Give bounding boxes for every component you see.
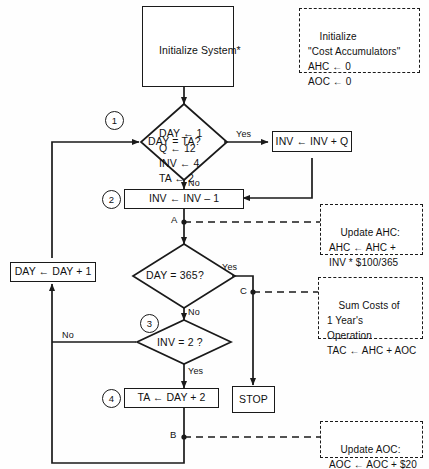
ta-day-plus-2-text: TA ← DAY + 2 xyxy=(137,390,205,405)
marker-circle-3: 3 xyxy=(140,314,159,333)
update-ahc-text: Update AHC: AHC ← AHC + INV * $100/365 xyxy=(329,227,400,268)
edge-invq-to-inv1 xyxy=(243,158,312,198)
node-initialize-system: Initialize System* DAY ← 1 Q ← 12 INV ← … xyxy=(142,6,234,87)
node-inv-minus-1: INV ← INV – 1 xyxy=(124,189,244,209)
marker-circle-4: 4 xyxy=(102,389,121,408)
node-inv-plus-q: INV ← INV + Q xyxy=(272,131,352,152)
edge-label-no-day-ta: No xyxy=(188,178,200,188)
edge-label-no-inv-2: No xyxy=(62,330,74,340)
decision-inv-eq-2-label: INV = 2 ? xyxy=(157,336,203,348)
edge-label-yes-day-ta: Yes xyxy=(236,129,251,139)
note-update-aoc: Update AOC: AOC ← AOC + $20 xyxy=(320,421,423,458)
initialize-system-title: Initialize System* xyxy=(159,43,233,58)
node-ta-day-plus-2: TA ← DAY + 2 xyxy=(124,388,219,408)
note-initialize-cost-accumulators: Initialize "Cost Accumulators" AHC ← 0 A… xyxy=(299,8,420,73)
note-sum-costs: Sum Costs of 1 Year's Operation TAC ← AH… xyxy=(318,277,423,339)
day-plus-1-text: DAY ← DAY + 1 xyxy=(15,264,92,279)
point-a-dot xyxy=(181,219,186,224)
node-day-plus-1: DAY ← DAY + 1 xyxy=(10,262,96,282)
node-stop: STOP xyxy=(232,386,275,413)
edge-tabox-loopback xyxy=(52,284,184,463)
decision-day-eq-ta-label: DAY = TA? xyxy=(148,135,201,147)
connector-point-c: C xyxy=(240,285,247,296)
note-update-ahc: Update AHC: AHC ← AHC + INV * $100/365 xyxy=(320,204,423,255)
edge-label-no-day-365: No xyxy=(188,307,200,317)
marker-circle-1: 1 xyxy=(105,111,124,130)
connector-point-b: B xyxy=(170,429,176,440)
decision-day-eq-365-label: DAY = 365? xyxy=(146,269,204,281)
update-aoc-text: Update AOC: AOC ← AOC + $20 xyxy=(329,444,417,469)
marker-circle-2: 2 xyxy=(102,190,121,209)
sum-costs-text: Sum Costs of 1 Year's Operation TAC ← AH… xyxy=(327,300,416,356)
connector-point-a: A xyxy=(171,214,177,225)
stop-text: STOP xyxy=(239,392,268,407)
inv-plus-q-text: INV ← INV + Q xyxy=(276,134,349,149)
flowchart-canvas: Initialize System* DAY ← 1 Q ← 12 INV ← … xyxy=(0,0,429,469)
edge-label-yes-inv-2: Yes xyxy=(188,366,203,376)
edge-label-yes-day-365: Yes xyxy=(222,262,237,272)
inv-minus-1-text: INV ← INV – 1 xyxy=(149,191,219,206)
